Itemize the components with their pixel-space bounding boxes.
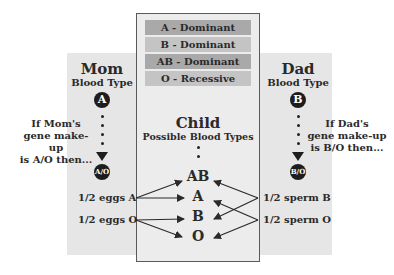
inheritance-arrows — [0, 0, 394, 275]
